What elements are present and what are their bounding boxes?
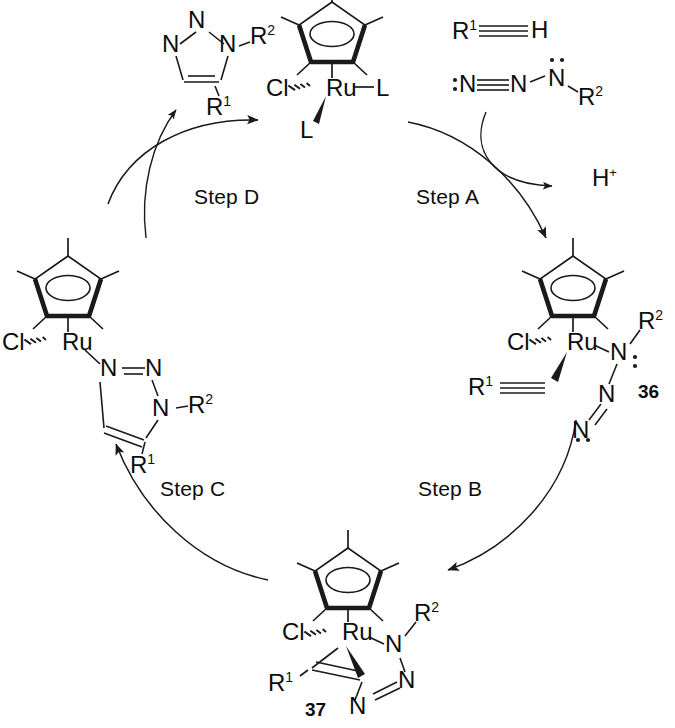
- s37-n-bottom-label: N: [349, 694, 366, 718]
- s37-r2-letter: R: [414, 599, 431, 626]
- product-r1-sup: 1: [223, 93, 231, 109]
- sleft-r2-letter: R: [188, 391, 205, 418]
- product-r2-label: R2: [250, 23, 275, 48]
- sleft-r2-label: R2: [188, 392, 213, 417]
- catalyst-l-bottom-label: L: [300, 118, 313, 142]
- sleft-ru-label: Ru: [62, 330, 93, 354]
- s37-n-right-label: N: [398, 668, 415, 692]
- reagent-alkyne-bonds: [479, 26, 528, 36]
- sleft-r1-letter: R: [130, 451, 147, 478]
- azide-n1-label: N: [459, 72, 476, 96]
- sleft-n3-label: N: [152, 396, 169, 420]
- s37-r2-sup: 2: [431, 599, 439, 615]
- reagent-alkyne-r1-label: R1: [452, 18, 477, 43]
- catalyst-cl-label: Cl: [266, 76, 289, 100]
- cycle-arrow-step-a: [408, 122, 546, 238]
- structure-catalyst: [281, 0, 383, 124]
- step-a-label: Step A: [416, 186, 479, 207]
- product-r1-letter: R: [206, 93, 223, 120]
- product-n1-label: N: [162, 32, 179, 56]
- azide-r2-label: R2: [578, 84, 603, 109]
- sleft-r1-sup: 1: [147, 451, 155, 467]
- s36-r2-letter: R: [638, 307, 655, 334]
- product-r2-letter: R: [250, 22, 267, 49]
- step-c-label: Step C: [160, 478, 225, 499]
- product-release-arrow: [144, 110, 176, 238]
- s37-r1-letter: R: [268, 669, 285, 696]
- structure-triazole-product: [176, 32, 250, 96]
- catalyst-ru-label: Ru: [326, 76, 357, 100]
- byproduct-h-plus-label: H+: [592, 166, 617, 190]
- s36-r1-label: R1: [468, 374, 493, 399]
- azide-n3-label: N: [548, 66, 565, 90]
- azide-r-letter: R: [578, 83, 595, 110]
- sleft-r2-sup: 2: [205, 391, 213, 407]
- alkyne-r-sup: 1: [469, 17, 477, 33]
- product-n2-label: N: [188, 8, 205, 32]
- step-d-label: Step D: [194, 186, 259, 207]
- s36-r2-label: R2: [638, 308, 663, 333]
- sleft-n2-label: N: [145, 356, 162, 380]
- h-letter: H: [592, 164, 609, 191]
- s37-ru-label: Ru: [342, 620, 373, 644]
- sleft-r1-label: R1: [130, 452, 155, 477]
- s37-r1-sup: 1: [285, 669, 293, 685]
- s36-n-term-label: N: [572, 418, 589, 442]
- s37-n-amide-label: N: [385, 632, 402, 656]
- catalyst-l-right-label: L: [376, 76, 389, 100]
- reagent-entry-arrow: [481, 112, 552, 186]
- s36-cl-label: Cl: [507, 330, 530, 354]
- azide-n2-label: N: [510, 72, 527, 96]
- structure-36-number: 36: [638, 382, 659, 401]
- step-b-label: Step B: [418, 478, 482, 499]
- product-r2-sup: 2: [267, 22, 275, 38]
- s37-r1-label: R1: [268, 670, 293, 695]
- reagent-alkyne-h-label: H: [531, 18, 548, 42]
- azide-r-sup: 2: [595, 83, 603, 99]
- s36-ru-label: Ru: [567, 330, 598, 354]
- product-r1-label: R1: [206, 94, 231, 119]
- structure-triazolyl-complex: [17, 238, 188, 454]
- structure-37-number: 37: [305, 700, 326, 719]
- s36-n-mid-label: N: [598, 382, 615, 406]
- catalytic-cycle-diagram: N N N R2 R1 Ru Cl L L R1 H N N N R2 H+ S…: [0, 0, 675, 728]
- sleft-n1-label: N: [100, 356, 117, 380]
- s36-r1-letter: R: [468, 373, 485, 400]
- sleft-cl-label: Cl: [2, 330, 25, 354]
- h-charge: +: [609, 165, 617, 180]
- s36-n-amide-label: N: [610, 340, 627, 364]
- product-n3-label: N: [219, 32, 236, 56]
- s36-r1-sup: 1: [485, 373, 493, 389]
- alkyne-r-letter: R: [452, 17, 469, 44]
- s37-r2-label: R2: [414, 600, 439, 625]
- s36-r2-sup: 2: [655, 307, 663, 323]
- s37-cl-label: Cl: [282, 620, 305, 644]
